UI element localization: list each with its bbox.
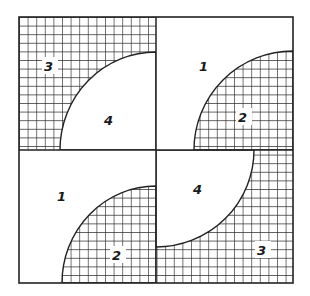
- label-1-top-right: 1: [199, 59, 208, 74]
- quilt-block-diagram: 3 4 1 2 1 2 4 3: [0, 0, 310, 296]
- label-4-bottom-right: 4: [192, 182, 202, 197]
- label-4-top-left: 4: [103, 113, 113, 128]
- label-1-bottom-left: 1: [57, 189, 66, 204]
- label-3-bottom-right: 3: [257, 243, 266, 258]
- label-3-top-left: 3: [44, 59, 53, 74]
- quadrant-bottom-left: [19, 150, 156, 283]
- label-2-top-right: 2: [238, 110, 247, 125]
- quadrant-bottom-right: [156, 150, 293, 283]
- label-2-bottom-left: 2: [112, 248, 121, 263]
- quadrant-top-right: [156, 17, 293, 150]
- quadrant-top-left: [19, 17, 156, 150]
